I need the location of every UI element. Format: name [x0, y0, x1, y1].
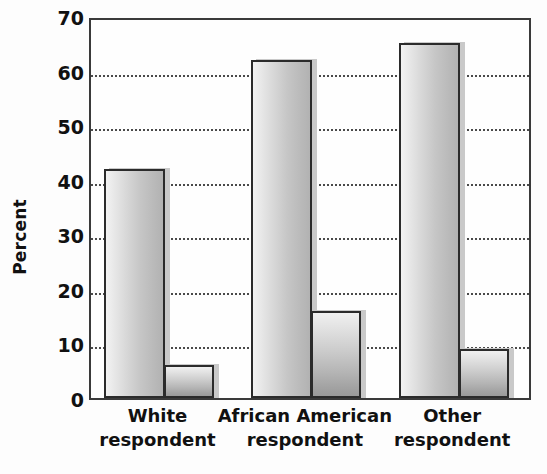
- plot-area: [89, 18, 531, 400]
- y-tick-label: 10: [38, 336, 84, 355]
- bar: [164, 365, 214, 398]
- bar: [459, 349, 509, 398]
- y-tick-label: 20: [38, 281, 84, 300]
- x-category-label-line1: Other: [352, 404, 547, 428]
- x-category-label: Otherrespondent: [352, 404, 547, 453]
- y-tick-label: 60: [38, 63, 84, 82]
- bar-chart: Percent 706050403020100 WhiterespondentA…: [0, 0, 547, 474]
- y-axis-tick-labels: 706050403020100: [28, 0, 84, 474]
- bar: [251, 60, 312, 398]
- x-axis-category-labels: WhiterespondentAfrican Americanresponden…: [89, 404, 531, 474]
- bar: [104, 169, 165, 398]
- y-tick-label: 30: [38, 227, 84, 246]
- y-tick-label: 70: [38, 9, 84, 28]
- y-tick-label: 50: [38, 118, 84, 137]
- bar: [399, 43, 460, 398]
- y-tick-label: 40: [38, 172, 84, 191]
- x-category-label-line2: respondent: [352, 428, 547, 452]
- bar: [311, 311, 361, 398]
